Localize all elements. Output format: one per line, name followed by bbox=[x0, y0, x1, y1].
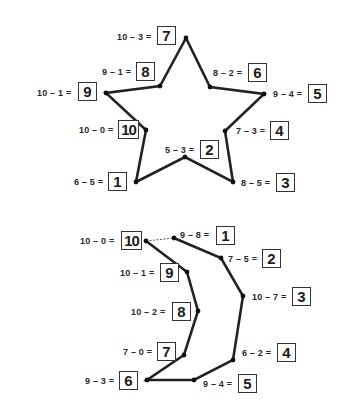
answer-box: 9 bbox=[160, 263, 179, 282]
answer-box: 10 bbox=[118, 120, 139, 139]
equation-label: 9 – 3 = bbox=[85, 376, 114, 386]
equation-label: 9 – 4 = bbox=[273, 89, 302, 99]
answer-box: 7 bbox=[157, 342, 176, 361]
equation-label: 9 – 1 = bbox=[102, 67, 131, 77]
star-outline bbox=[106, 38, 264, 182]
answer-box: 9 bbox=[78, 82, 97, 101]
answer-box: 2 bbox=[262, 249, 281, 268]
equation-label: 10 – 0 = bbox=[79, 125, 113, 135]
equation-label: 10 – 1 = bbox=[37, 88, 71, 98]
answer-box: 10 bbox=[121, 231, 142, 250]
equation-label: 7 – 3 = bbox=[236, 126, 265, 136]
moon-dotted-guide bbox=[146, 238, 174, 241]
answer-box: 8 bbox=[172, 302, 191, 321]
equation-label: 6 – 2 = bbox=[242, 348, 271, 358]
answer-box: 1 bbox=[216, 226, 235, 245]
answer-box: 7 bbox=[157, 26, 176, 45]
answer-box: 2 bbox=[200, 140, 219, 159]
equation-label: 8 – 2 = bbox=[213, 68, 242, 78]
equation-label: 9 – 4 = bbox=[203, 379, 232, 389]
equation-label: 7 – 0 = bbox=[123, 347, 152, 357]
answer-box: 4 bbox=[277, 343, 296, 362]
equation-label: 9 – 8 = bbox=[180, 230, 209, 240]
equation-label: 8 – 5 = bbox=[241, 178, 270, 188]
equation-label: 10 – 7 = bbox=[252, 292, 286, 302]
equation-label: 10 – 2 = bbox=[131, 307, 165, 317]
equation-label: 10 – 0 = bbox=[80, 236, 114, 246]
equation-label: 10 – 3 = bbox=[117, 32, 151, 42]
answer-box: 3 bbox=[276, 173, 295, 192]
answer-box: 8 bbox=[136, 62, 155, 81]
answer-box: 6 bbox=[248, 63, 267, 82]
equation-label: 7 – 5 = bbox=[228, 254, 257, 264]
answer-box: 5 bbox=[308, 84, 327, 103]
equation-label: 5 – 3 = bbox=[165, 145, 194, 155]
equation-label: 6 – 5 = bbox=[74, 177, 103, 187]
answer-box: 5 bbox=[238, 374, 257, 393]
star-dots bbox=[104, 36, 267, 185]
worksheet: 10 – 3 = 7 9 – 1 = 8 8 – 2 = 6 10 – 1 = … bbox=[0, 0, 351, 412]
answer-box: 6 bbox=[119, 371, 138, 390]
equation-label: 10 – 1 = bbox=[120, 268, 154, 278]
answer-box: 3 bbox=[292, 287, 311, 306]
answer-box: 4 bbox=[270, 121, 289, 140]
answer-box: 1 bbox=[108, 172, 127, 191]
